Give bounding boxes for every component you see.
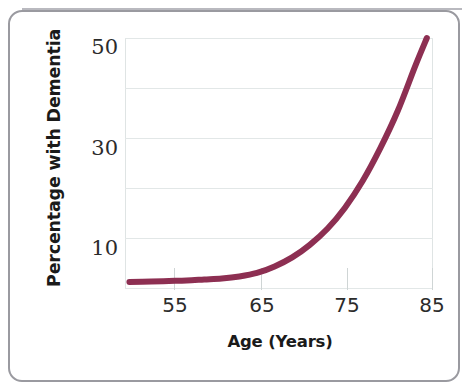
x-tick-label-85: 85 <box>402 293 462 317</box>
x-tick-label-55: 55 <box>145 293 205 317</box>
y-tick-label-50: 50 <box>78 35 118 59</box>
data-series-line <box>129 38 426 282</box>
figure-root: Percentage with Dementia 50 30 10 55 65 … <box>0 0 463 382</box>
chart-canvas <box>125 38 433 289</box>
x-axis-title: Age (Years) <box>180 332 380 351</box>
y-tick-label-30: 30 <box>78 136 118 160</box>
y-tick-label-10: 10 <box>78 236 118 260</box>
y-axis-title: Percentage with Dementia <box>44 47 64 287</box>
x-tick-label-65: 65 <box>232 293 292 317</box>
x-tick-label-75: 75 <box>317 293 377 317</box>
